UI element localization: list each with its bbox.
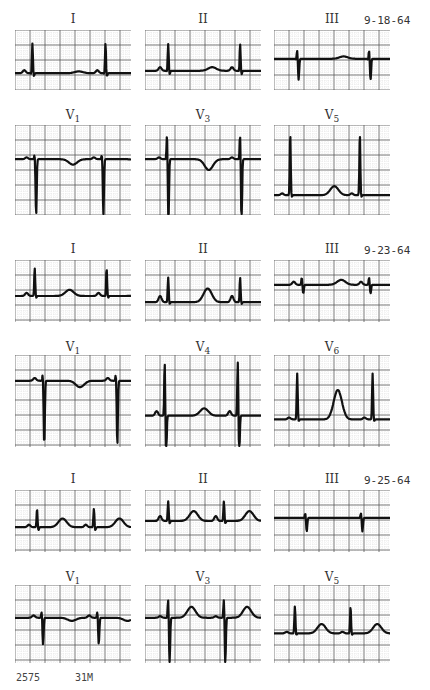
ecg-panel-v5 [274,125,390,215]
grid [145,260,261,322]
grid [274,585,390,663]
lead-subscript: 3 [204,114,210,124]
lead-label: V5 [274,108,390,124]
ecg-panel-i [15,260,131,322]
lead-name: III [325,12,339,26]
lead-name: I [71,242,76,256]
lead-name: III [325,472,339,486]
grid [145,585,261,663]
ecg-panel-iii [274,260,390,322]
lead-label: II [145,472,261,486]
ecg-panel-ii [145,260,261,322]
lead-label: II [145,12,261,26]
ecg-panel-v1 [15,125,131,215]
ecg-panel-ii [145,490,261,552]
lead-name: III [325,242,339,256]
ecg-panel-ii [145,30,261,90]
lead-label: V5 [274,570,390,586]
ecg-trace [274,514,390,532]
lead-name: II [198,12,207,26]
lead-subscript: 5 [333,114,339,124]
lead-subscript: 1 [74,114,80,124]
ecg-panel-iii [274,490,390,552]
lead-name: II [198,242,207,256]
ecg-trace [145,44,261,74]
grid [145,355,261,447]
ecg-trace [145,363,261,446]
ecg-panel-v3 [145,125,261,215]
ecg-trace [15,269,131,298]
ecg-trace [145,600,261,662]
ecg-trace [145,278,261,304]
ecg-trace [15,613,131,645]
lead-name: I [71,472,76,486]
grid [15,490,131,552]
ecg-trace [274,278,390,293]
recording-date: 9-23-64 [364,244,410,257]
lead-label: V1 [15,340,131,356]
patient-info: 31M [75,672,93,683]
ecg-panel-i [15,490,131,552]
recording-date: 9-18-64 [364,14,410,27]
recording-date: 9-25-64 [364,474,410,487]
lead-name: II [198,472,207,486]
lead-label: II [145,242,261,256]
lead-label: V3 [145,108,261,124]
grid [145,30,261,90]
ecg-panel-v6 [274,355,390,447]
lead-label: V4 [145,340,261,356]
lead-label: I [15,12,131,26]
grid [15,585,131,663]
ecg-trace [15,509,131,530]
lead-label: V3 [145,570,261,586]
grid [15,355,131,447]
grid [15,125,131,215]
ecg-panel-v1 [15,585,131,663]
lead-label: I [15,472,131,486]
case-number: 2575 [16,672,40,683]
lead-name: I [71,12,76,26]
ecg-panel-v1 [15,355,131,447]
lead-label: V1 [15,570,131,586]
grid [274,260,390,322]
lead-label: V6 [274,340,390,356]
grid [274,490,390,552]
ecg-panel-v5 [274,585,390,663]
lead-label: I [15,242,131,256]
lead-label: V1 [15,108,131,124]
ecg-panel-iii [274,30,390,90]
ecg-panel-v4 [145,355,261,447]
ecg-panel-v3 [145,585,261,663]
ecg-panel-i [15,30,131,90]
